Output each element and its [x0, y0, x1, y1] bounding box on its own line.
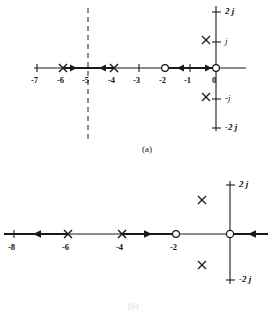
root-locus-plot-b: -8 -6 -4 -2 2 j -2 j (b) [0, 155, 271, 309]
zero-marker-b-0 [226, 230, 233, 237]
plot-a-caption: (a) [142, 144, 152, 154]
y-tick-label-a--2j: -2 j [225, 123, 237, 132]
x-tick-label-b-1: -6 [62, 243, 69, 252]
locus-arrow-b-1 [33, 230, 41, 238]
x-tick-label-a-4: -3 [133, 76, 140, 85]
y-tick-label-b-2j: 2 j [239, 180, 248, 189]
pole-marker-a--1-plus-j [202, 36, 210, 44]
x-tick-label-a-6: -1 [184, 76, 191, 85]
x-tick-label-b-3: -2 [170, 243, 177, 252]
root-locus-plot-a: -7 -6 -5 -4 -3 -2 -1 0 2 j j -j -2 j (a) [0, 0, 271, 155]
locus-arrow-a-1 [70, 64, 77, 71]
locus-arrow-b-3 [248, 230, 256, 238]
zero-marker-b--2 [173, 231, 180, 238]
pole-marker-b--1-minus-j [198, 261, 206, 269]
y-tick-label-b--2j: -2 j [239, 275, 251, 284]
plot-b-caption: (b) [128, 301, 139, 311]
pole-marker-b--1-plus-j [198, 196, 206, 204]
x-tick-label-a-3: -4 [108, 76, 115, 85]
x-tick-label-a-1: -6 [57, 76, 64, 85]
locus-arrow-a-3 [177, 64, 184, 71]
locus-arrow-a-4 [205, 64, 212, 71]
x-tick-label-b-2: -4 [116, 243, 123, 252]
plot-b-canvas [0, 155, 271, 309]
y-tick-label-a--j: -j [225, 94, 231, 103]
x-tick-label-a-7: 0 [212, 76, 216, 85]
x-tick-label-b-0: -8 [8, 243, 15, 252]
locus-arrow-b-2 [144, 230, 152, 238]
x-tick-label-a-2: -5 [82, 76, 89, 85]
y-tick-label-a-j: j [225, 37, 228, 46]
x-tick-label-a-0: -7 [31, 76, 38, 85]
zero-marker-a-0 [213, 65, 220, 72]
y-tick-label-a-2j: 2 j [225, 7, 234, 16]
locus-arrow-a-2 [99, 64, 106, 71]
zero-marker-a--2 [162, 65, 169, 72]
x-tick-label-a-5: -2 [159, 76, 166, 85]
pole-marker-a--1-minus-j [202, 93, 210, 101]
